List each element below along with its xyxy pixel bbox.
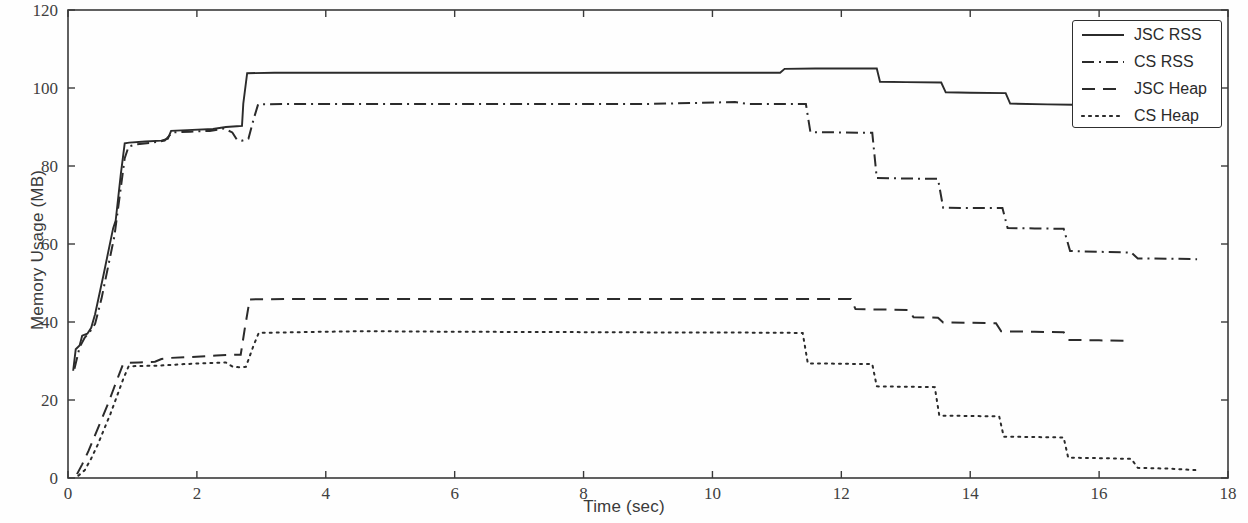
plot-frame [68,10,1228,478]
series-line-jsc-rss [73,69,1199,371]
axis-ticks [68,10,1228,478]
legend-entry-jsc-heap: JSC Heap [1073,75,1221,102]
y-tick-label: 120 [0,1,58,21]
legend-line-sample [1080,79,1126,99]
y-tick-label: 20 [0,391,58,411]
y-tick-label: 100 [0,79,58,99]
legend-line-sample [1080,106,1126,126]
legend-entry-jsc-rss: JSC RSS [1073,21,1221,48]
memory-usage-chart-figure: 020406080100120024681012141618 Memory Us… [0,0,1248,523]
chart-legend: JSC RSSCS RSSJSC HeapCS Heap [1072,20,1222,128]
legend-label: JSC RSS [1134,26,1202,44]
legend-entry-cs-rss: CS RSS [1073,48,1221,75]
axes-frame [68,10,1228,478]
y-tick-label: 0 [0,469,58,489]
series-line-cs-heap [78,331,1197,475]
series-line-jsc-heap [77,299,1128,474]
legend-line-sample [1080,52,1126,72]
series-line-cs-rss [74,102,1197,369]
legend-label: CS Heap [1134,107,1199,125]
x-axis-title: Time (sec) [0,497,1248,517]
legend-line-sample [1080,25,1126,45]
plot-canvas [0,0,1248,523]
legend-label: CS RSS [1134,53,1194,71]
legend-label: JSC Heap [1134,80,1207,98]
legend-entry-cs-heap: CS Heap [1073,102,1221,129]
data-series-group [73,69,1199,476]
y-axis-title: Memory Usage (MB) [28,150,48,350]
